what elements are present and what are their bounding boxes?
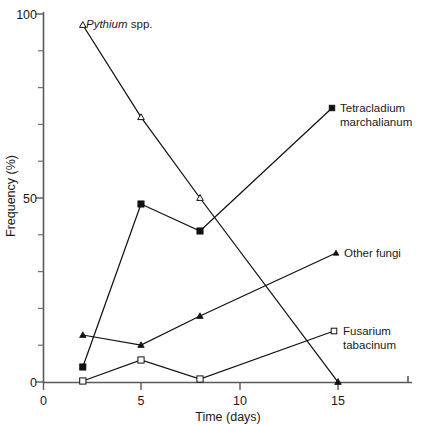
marker-filled-square — [138, 201, 144, 207]
series-fusarium-line — [83, 331, 334, 381]
x-tick-label-10: 10 — [233, 394, 247, 408]
series-tetracladium-line — [83, 108, 332, 367]
marker-open-square — [138, 357, 144, 363]
y-tick-label-0: 0 — [30, 376, 37, 390]
marker-open-square — [197, 376, 203, 382]
series-label-fusarium-line1: Fusarium — [343, 325, 391, 337]
series-pythium-line — [83, 25, 338, 382]
series-label-tetracladium-line1: Tetracladium — [340, 102, 405, 114]
marker-open-square — [80, 378, 86, 384]
y-axis-title: Frequency (%) — [4, 155, 18, 237]
marker-filled-triangle — [333, 250, 339, 255]
series-label-pythium-italic: Pythium — [86, 18, 128, 30]
marker-filled-square — [329, 105, 335, 111]
marker-open-square — [331, 328, 337, 334]
x-axis-title: Time (days) — [195, 410, 261, 424]
x-tick-label-0: 0 — [40, 394, 47, 408]
series-label-fusarium-line2: tabacinum — [343, 339, 396, 351]
chart-figure: 100 50 0 0 5 10 15 Time (days) Frequency… — [0, 0, 439, 424]
x-tick-label-5: 5 — [138, 394, 145, 408]
marker-filled-triangle — [80, 332, 86, 338]
y-tick-label-50: 50 — [23, 192, 37, 206]
series-pythium: Pythium spp. — [80, 18, 342, 384]
series-label-pythium-rest: spp. — [128, 18, 153, 30]
series-label-other-fungi: Other fungi — [344, 247, 401, 259]
series-fusarium: Fusarium tabacinum — [80, 325, 396, 384]
series-other-fungi-line — [83, 253, 336, 345]
series-label-pythium: Pythium spp. — [86, 18, 152, 30]
y-tick-label-100: 100 — [16, 8, 37, 22]
marker-filled-square — [80, 364, 86, 370]
marker-filled-square — [197, 228, 203, 234]
chart-canvas: 100 50 0 0 5 10 15 Time (days) Frequency… — [0, 0, 439, 424]
series-label-tetracladium-line2: marchalianum — [340, 116, 412, 128]
x-tick-label-15: 15 — [331, 394, 345, 408]
